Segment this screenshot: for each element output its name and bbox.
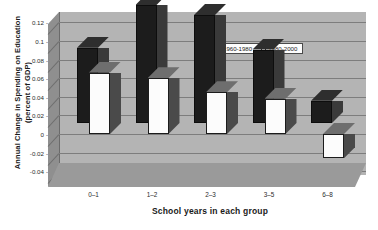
bar-front-face (206, 92, 227, 134)
y-axis-tick-labels: 0.12-0.1-0.08-0.06-0.04-0.02-0--0.02--0.… (6, 0, 48, 230)
y-tick-label: 0.12- (14, 19, 48, 26)
y-tick-label: -0.04- (14, 168, 48, 175)
bar-front-face (311, 101, 332, 123)
y-tick-label: 0.1- (14, 38, 48, 45)
bar-front-face (265, 99, 286, 134)
bar (148, 78, 169, 134)
chart-figure: Annual Change in Spending on Education (… (0, 0, 378, 230)
x-tick-label: 3–5 (244, 191, 294, 198)
x-tick-label: 0–1 (69, 191, 119, 198)
plot-floor (48, 163, 366, 187)
x-tick-label: 1–2 (127, 191, 177, 198)
bar-front-face (89, 73, 110, 134)
y-tick-label: 0.02- (14, 112, 48, 119)
y-tick-label: 0- (14, 131, 48, 138)
gridline (59, 134, 366, 135)
y-tick-label: 0.04- (14, 93, 48, 100)
bar (311, 101, 332, 123)
gridline (59, 153, 366, 154)
x-axis-title: School years in each group (60, 206, 360, 216)
plot-wall-edge (59, 12, 60, 175)
bar (89, 73, 110, 134)
y-tick-label: 0.06- (14, 75, 48, 82)
bar-front-face (148, 78, 169, 134)
x-tick-label: 6–8 (303, 191, 353, 198)
legend-label: 1960-1980 (223, 45, 252, 52)
y-tick-label: -0.02- (14, 149, 48, 156)
plot-area (48, 12, 366, 187)
bar (206, 92, 227, 134)
bar-front-face (323, 134, 344, 158)
bar (323, 134, 344, 158)
bar (265, 99, 286, 134)
y-tick-label: 0.08- (14, 56, 48, 63)
x-tick-label: 2–3 (186, 191, 236, 198)
